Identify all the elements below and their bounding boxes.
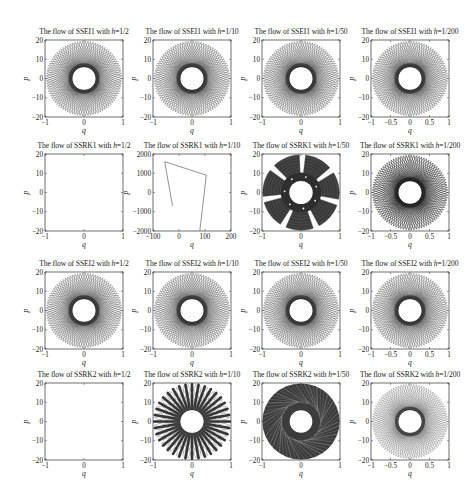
x-tick-label: −0.5 bbox=[384, 351, 397, 359]
y-tick-label: 20 bbox=[36, 380, 44, 388]
y-tick-label: 20 bbox=[362, 269, 370, 277]
h-value: =1/200 bbox=[437, 259, 458, 268]
y-tick-label: −10 bbox=[140, 94, 152, 102]
x-axis-label: q bbox=[190, 240, 194, 249]
title-text: The flow of SSRK2 with bbox=[253, 370, 329, 379]
x-axis-label: q bbox=[82, 358, 86, 367]
y-tick-label: −10 bbox=[32, 326, 44, 334]
x-tick-label: 1 bbox=[338, 119, 342, 127]
y-tick-label: 20 bbox=[362, 37, 370, 45]
y-tick-label: −10 bbox=[32, 208, 44, 216]
plot-axes: −10120100−10−20qp bbox=[45, 40, 123, 117]
y-tick-label: 10 bbox=[253, 399, 261, 407]
plot-data bbox=[372, 384, 448, 459]
y-tick-label: −20 bbox=[249, 114, 261, 122]
h-value: =1/50 bbox=[330, 27, 347, 36]
y-tick-label: −20 bbox=[32, 346, 44, 354]
y-axis-label: p bbox=[129, 308, 138, 313]
y-tick-label: 10 bbox=[253, 56, 261, 64]
y-tick-label: 0 bbox=[39, 307, 43, 315]
x-tick-label: 1 bbox=[229, 351, 233, 359]
y-tick-label: 10 bbox=[144, 56, 152, 64]
x-tick-label: 200 bbox=[226, 233, 237, 241]
figure-grid: The flow of SSEI1 with h=1/2−10120100−10… bbox=[0, 0, 468, 490]
plot-title: The flow of SSEI1 with h=1/10 bbox=[134, 27, 250, 36]
plot-title: The flow of SSRK1 with h=1/50 bbox=[243, 141, 359, 150]
y-tick-label: −10 bbox=[358, 326, 370, 334]
y-tick-label: 1000 bbox=[137, 170, 152, 178]
plot-title: The flow of SSEI2 with h=1/2 bbox=[26, 259, 142, 268]
y-tick-label: 2000 bbox=[137, 151, 152, 159]
h-value: =1/200 bbox=[439, 370, 460, 379]
y-tick-label: −10 bbox=[249, 437, 261, 445]
plot-title: The flow of SSRK2 with h=1/10 bbox=[134, 370, 250, 379]
x-axis-label: q bbox=[299, 126, 303, 135]
y-tick-label: 10 bbox=[253, 288, 261, 296]
plot-axes: −10120100−10−20qp bbox=[153, 383, 231, 460]
title-text: The flow of SSEI2 with bbox=[39, 259, 111, 268]
y-tick-label: 10 bbox=[36, 288, 44, 296]
y-tick-label: −2000 bbox=[133, 228, 152, 236]
y-tick-label: 20 bbox=[36, 269, 44, 277]
y-axis-label: p bbox=[129, 76, 138, 81]
y-tick-label: 0 bbox=[256, 418, 260, 426]
y-tick-label: 20 bbox=[253, 151, 261, 159]
x-tick-label: 0 bbox=[177, 233, 181, 241]
plot-data bbox=[46, 41, 122, 116]
y-tick-label: 0 bbox=[39, 75, 43, 83]
plot-title: The flow of SSEI1 with h=1/200 bbox=[352, 27, 468, 36]
x-tick-label: 1 bbox=[338, 462, 342, 470]
y-tick-label: −20 bbox=[140, 457, 152, 465]
plot-axes: −1−0.500.5120100−10−20qp bbox=[371, 383, 449, 460]
x-tick-label: 1 bbox=[447, 351, 451, 359]
x-axis-label: q bbox=[408, 126, 412, 135]
plot-title: The flow of SSEI2 with h=1/200 bbox=[352, 259, 468, 268]
y-tick-label: 0 bbox=[365, 307, 369, 315]
plot-title: The flow of SSRK2 with h=1/200 bbox=[352, 370, 468, 379]
plot-data bbox=[46, 273, 122, 348]
y-tick-label: 0 bbox=[147, 307, 151, 315]
plot-data bbox=[372, 41, 448, 116]
title-text: The flow of SSRK1 with bbox=[38, 141, 114, 150]
x-tick-label: 0.5 bbox=[425, 233, 434, 241]
plot-title: The flow of SSEI1 with h=1/50 bbox=[243, 27, 359, 36]
y-tick-label: −20 bbox=[358, 228, 370, 236]
y-tick-label: 0 bbox=[147, 418, 151, 426]
h-value: =1/200 bbox=[439, 141, 460, 150]
title-text: The flow of SSRK1 with bbox=[144, 141, 220, 150]
x-axis-label: q bbox=[299, 240, 303, 249]
h-value: =1/2 bbox=[115, 259, 129, 268]
y-tick-label: 0 bbox=[256, 189, 260, 197]
plot-data bbox=[154, 384, 230, 459]
y-tick-label: 0 bbox=[365, 418, 369, 426]
y-tick-label: −10 bbox=[249, 208, 261, 216]
y-tick-label: −10 bbox=[358, 437, 370, 445]
x-tick-label: 1 bbox=[447, 233, 451, 241]
plot-data bbox=[263, 41, 339, 116]
y-tick-label: 0 bbox=[256, 75, 260, 83]
y-tick-label: 20 bbox=[253, 269, 261, 277]
x-tick-label: 0.5 bbox=[425, 462, 434, 470]
x-tick-label: −0.5 bbox=[384, 119, 397, 127]
h-value: =1/2 bbox=[115, 27, 129, 36]
h-value: =1/10 bbox=[223, 370, 240, 379]
title-text: The flow of SSRK1 with bbox=[360, 141, 436, 150]
x-tick-label: 1 bbox=[338, 351, 342, 359]
x-tick-label: 1 bbox=[121, 119, 125, 127]
x-tick-label: 1 bbox=[338, 233, 342, 241]
y-axis-label: p bbox=[347, 190, 356, 195]
title-text: The flow of SSRK2 with bbox=[144, 370, 220, 379]
y-tick-label: 0 bbox=[39, 189, 43, 197]
plot-title: The flow of SSEI2 with h=1/10 bbox=[134, 259, 250, 268]
x-tick-label: 1 bbox=[447, 462, 451, 470]
x-axis-label: q bbox=[190, 126, 194, 135]
h-value: =1/2 bbox=[117, 370, 131, 379]
y-tick-label: 10 bbox=[36, 399, 44, 407]
y-tick-label: −10 bbox=[32, 437, 44, 445]
plot-title: The flow of SSRK2 with h=1/50 bbox=[243, 370, 359, 379]
y-axis-label: p bbox=[238, 76, 247, 81]
title-text: The flow of SSEI2 with bbox=[145, 259, 217, 268]
plot-data bbox=[263, 155, 339, 230]
y-tick-label: 0 bbox=[365, 75, 369, 83]
y-axis-label: p bbox=[21, 190, 30, 195]
